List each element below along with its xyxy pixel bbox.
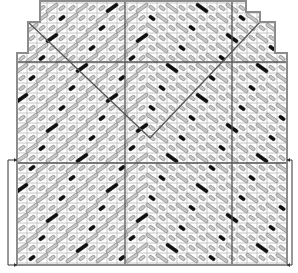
stitch-icon: [268, 15, 276, 22]
stitch-icon: [18, 25, 26, 32]
stitch-icon: [275, 13, 288, 24]
stitch-icon: [28, 5, 36, 12]
stitch-icon: [15, 33, 28, 44]
stitch-icon: [268, 5, 276, 12]
stitch-icon: [28, 15, 36, 22]
stitch-icon: [248, 5, 256, 12]
accent-stitch-icon: [15, 3, 28, 14]
stitch-icon: [18, 45, 26, 52]
lace-chart: [0, 0, 298, 273]
stitch-icon: [278, 35, 286, 42]
accent-stitch-icon: [278, 25, 286, 32]
stitch-icon: [18, 15, 26, 22]
stitch-icon: [278, 5, 286, 12]
stitch-icon: [275, 43, 288, 54]
